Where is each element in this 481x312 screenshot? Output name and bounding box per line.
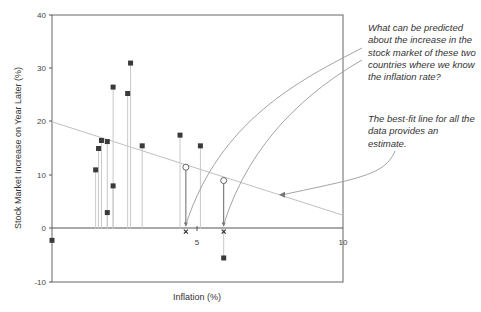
y-tick-20: 20 xyxy=(37,117,46,126)
y-tick-minus-10: -10 xyxy=(34,278,46,287)
predicted-point-circle xyxy=(221,178,227,184)
data-point-square xyxy=(93,167,98,172)
x-axis-label: Inflation (%) xyxy=(173,292,221,302)
y-tick-40: 40 xyxy=(37,11,46,20)
y-tick-10: 10 xyxy=(37,171,46,180)
x-tick-5: 5 xyxy=(195,238,200,247)
predicted-point-circle xyxy=(183,164,189,170)
data-point-square xyxy=(111,85,116,90)
data-point-square xyxy=(99,138,104,143)
data-point-square xyxy=(140,143,145,148)
data-point-square xyxy=(96,146,101,151)
data-point-square xyxy=(50,238,55,243)
data-point-square xyxy=(128,61,133,66)
data-point-square xyxy=(111,183,116,188)
y-axis-label: Stock Market Increase on Year Later (%) xyxy=(13,67,23,229)
known-inflation-x-marker xyxy=(184,230,188,234)
y-tick-0: 0 xyxy=(42,224,47,233)
data-point-square xyxy=(221,255,226,260)
data-point-square xyxy=(178,133,183,138)
question-annotation: What can be predicted about the increase… xyxy=(368,22,480,83)
estimate-annotation: The best-fit line for all the data provi… xyxy=(368,113,476,150)
y-tick-30: 30 xyxy=(37,64,46,73)
drop-lines xyxy=(96,63,226,258)
x-tick-10: 10 xyxy=(339,238,348,247)
data-point-square xyxy=(125,91,130,96)
data-point-square xyxy=(105,210,110,215)
data-point-square xyxy=(198,143,203,148)
data-point-square xyxy=(105,139,110,144)
